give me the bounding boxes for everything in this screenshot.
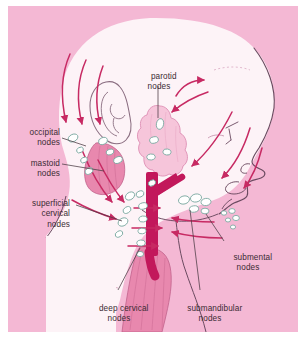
superficial-cervical-nodes-label: superficialcervicalnodes: [0, 189, 70, 240]
mastoid-nodes-label: mastoidnodes: [4, 149, 60, 190]
lymphatic-drainage-figure: occipitalnodes mastoidnodes superficialc…: [0, 0, 304, 338]
submental-node-group: [221, 209, 239, 229]
deep-cervical-nodes-label: deep cervicalnodes: [79, 294, 159, 335]
submandibular-nodes-label: submandibularnodes: [166, 294, 254, 335]
submental-nodes-label: submentalnodes: [213, 243, 283, 284]
parotid-nodes-label: parotidnodes: [128, 62, 190, 103]
